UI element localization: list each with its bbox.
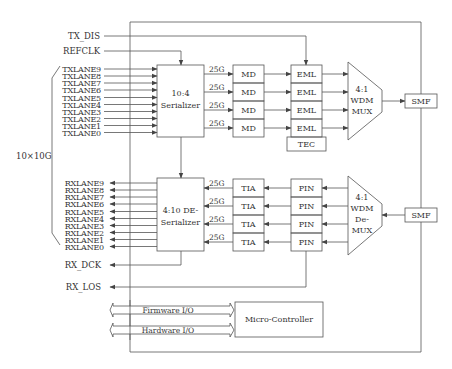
firmware-io-label: Firmware I/O bbox=[142, 306, 193, 315]
serializer-label-1: 10:4 bbox=[172, 89, 190, 98]
pin-labels: PIN PIN PIN PIN bbox=[299, 184, 315, 247]
rx-lane-labels: RXLANE9 RXLANE8 RXLANE7 RXLANE6 RXLANE5 … bbox=[65, 179, 104, 252]
svg-text:MD: MD bbox=[241, 124, 256, 133]
bus-bracket bbox=[52, 66, 60, 245]
tx-lane-arrows bbox=[104, 69, 157, 133]
tx-smf-label: SMF bbox=[411, 97, 431, 106]
svg-text:TIA: TIA bbox=[241, 238, 255, 247]
mux-label-2: WDM bbox=[351, 96, 374, 105]
rx-los-label: RX_LOS bbox=[66, 282, 101, 293]
serializer-label-2: Serializer bbox=[161, 101, 200, 110]
rx-los-line bbox=[110, 251, 306, 287]
module-frame bbox=[130, 22, 421, 352]
tx-lane-labels: TXLANE9 TXLANE8 TXLANE7 TXLANE6 TXLANE5 … bbox=[62, 65, 101, 138]
svg-text:25G: 25G bbox=[209, 101, 225, 110]
svg-text:PIN: PIN bbox=[299, 202, 315, 211]
demux-label-1: 4:1 bbox=[356, 193, 369, 202]
tx-dis-line bbox=[104, 36, 306, 65]
rx-dck-line bbox=[110, 251, 181, 265]
bus-width-label: 10×10G bbox=[16, 151, 52, 161]
rx-rate-labels: 25G 25G 25G 25G bbox=[209, 179, 225, 242]
rx-lane-arrows bbox=[110, 183, 157, 247]
tia-labels: TIA TIA TIA TIA bbox=[241, 184, 255, 247]
md-labels: MD MD MD MD bbox=[241, 70, 256, 133]
demux-label-3: De- bbox=[355, 215, 369, 224]
svg-text:MD: MD bbox=[241, 70, 256, 79]
svg-text:TIA: TIA bbox=[241, 184, 255, 193]
deserializer-label-2: Serializer bbox=[161, 218, 200, 227]
svg-text:EML: EML bbox=[297, 124, 317, 133]
svg-text:25G: 25G bbox=[209, 179, 225, 188]
eml-labels: EML EML EML EML bbox=[297, 70, 317, 133]
demux-label-2: WDM bbox=[351, 204, 374, 213]
hardware-io-label: Hardware I/O bbox=[142, 326, 194, 335]
svg-text:PIN: PIN bbox=[299, 184, 315, 193]
deserializer-label-1: 4:10 DE- bbox=[163, 206, 199, 215]
mux-label-3: MUX bbox=[352, 107, 373, 116]
transceiver-block-diagram: TX_DIS REFCLK 10×10G TXLANE9 TXLANE8 TXL… bbox=[0, 0, 452, 369]
svg-text:RXLANE0: RXLANE0 bbox=[65, 243, 104, 252]
svg-text:25G: 25G bbox=[209, 119, 225, 128]
tx-rate-labels: 25G 25G 25G 25G bbox=[209, 65, 225, 128]
svg-text:PIN: PIN bbox=[299, 238, 315, 247]
refclk-line bbox=[104, 51, 181, 65]
svg-text:TXLANE0: TXLANE0 bbox=[62, 129, 101, 138]
rx-smf-label: SMF bbox=[411, 211, 431, 220]
svg-text:MD: MD bbox=[241, 106, 256, 115]
svg-text:25G: 25G bbox=[209, 83, 225, 92]
svg-text:25G: 25G bbox=[209, 65, 225, 74]
refclk-label: REFCLK bbox=[63, 46, 101, 56]
tec-label: TEC bbox=[298, 140, 315, 149]
svg-text:EML: EML bbox=[297, 70, 317, 79]
svg-text:TIA: TIA bbox=[241, 220, 255, 229]
svg-text:PIN: PIN bbox=[299, 220, 315, 229]
svg-text:EML: EML bbox=[297, 88, 317, 97]
svg-text:25G: 25G bbox=[209, 197, 225, 206]
demux-label-4: MUX bbox=[352, 226, 373, 235]
svg-text:TIA: TIA bbox=[241, 202, 255, 211]
rx-dck-label: RX_DCK bbox=[65, 260, 102, 271]
micro-controller-label: Micro-Controller bbox=[245, 315, 313, 324]
svg-text:MD: MD bbox=[241, 88, 256, 97]
svg-text:EML: EML bbox=[297, 106, 317, 115]
tx-dis-label: TX_DIS bbox=[68, 31, 100, 42]
svg-text:25G: 25G bbox=[209, 233, 225, 242]
svg-text:25G: 25G bbox=[209, 215, 225, 224]
mux-label-1: 4:1 bbox=[356, 85, 369, 94]
